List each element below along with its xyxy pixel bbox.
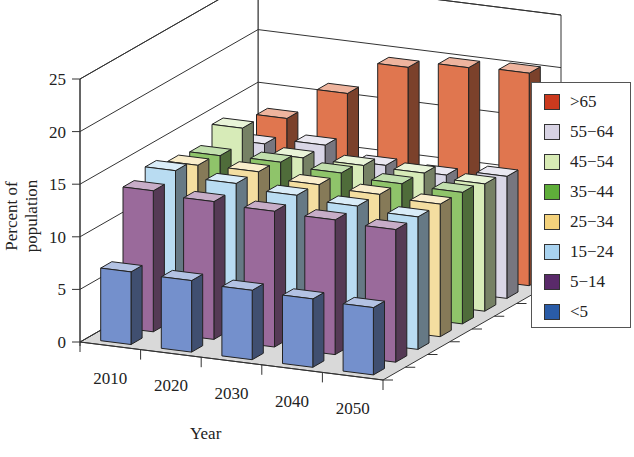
y-tick-label: 25 xyxy=(49,70,66,89)
legend-item: 15−24 xyxy=(544,241,614,263)
legend-swatch xyxy=(544,274,560,290)
y-tick-label: 5 xyxy=(58,280,67,299)
legend-swatch xyxy=(544,214,560,230)
legend-item: 45−54 xyxy=(544,151,614,173)
x-tick-label: 2020 xyxy=(154,376,188,395)
legend-item: >65 xyxy=(544,91,597,113)
x-tick-label: 2010 xyxy=(93,369,127,388)
x-tick-label: 2040 xyxy=(275,392,309,411)
legend-item: 55−64 xyxy=(544,121,614,143)
bar xyxy=(101,262,142,345)
bar xyxy=(222,280,263,360)
legend-label: >65 xyxy=(570,92,597,112)
bar xyxy=(161,270,202,352)
legend-item: <5 xyxy=(544,301,588,323)
legend-label: 35−44 xyxy=(570,182,614,202)
y-tick-label: 15 xyxy=(49,175,66,194)
bar xyxy=(343,297,384,375)
legend-swatch xyxy=(544,154,560,170)
legend-item: 5−14 xyxy=(544,271,605,293)
x-axis-label: Year xyxy=(190,424,221,444)
x-tick-label: 2050 xyxy=(336,399,370,418)
legend-swatch xyxy=(544,124,560,140)
legend-swatch xyxy=(544,94,560,110)
legend-label: <5 xyxy=(570,302,588,322)
legend-swatch xyxy=(544,304,560,320)
legend-item: 35−44 xyxy=(544,181,614,203)
x-tick-label: 2030 xyxy=(215,384,249,403)
bar xyxy=(283,289,324,368)
y-tick-label: 20 xyxy=(49,123,66,142)
y-tick-label: 0 xyxy=(58,333,67,352)
legend-label: 15−24 xyxy=(570,242,614,262)
legend-label: 55−64 xyxy=(570,122,614,142)
y-tick-label: 10 xyxy=(49,228,66,247)
legend-label: 45−54 xyxy=(570,152,614,172)
legend-item: 25−34 xyxy=(544,211,614,233)
legend-swatch xyxy=(544,184,560,200)
legend: >65 55−64 45−54 35−44 25−34 15−24 5−14 <… xyxy=(531,82,631,328)
legend-swatch xyxy=(544,244,560,260)
y-axis-label: Percent of population xyxy=(2,146,42,286)
legend-label: 5−14 xyxy=(570,272,605,292)
legend-label: 25−34 xyxy=(570,212,614,232)
